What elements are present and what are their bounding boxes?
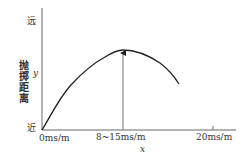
- x-tick-label-mid: 8~15ms/m: [96, 133, 145, 142]
- x-axis-variable: x: [140, 145, 145, 154]
- x-tick-label-20: 20ms/m: [196, 133, 232, 142]
- distance-curve: [42, 50, 179, 130]
- x-tick-label-0: 0ms/m: [39, 134, 69, 143]
- y-axis-far-label: 远: [27, 17, 36, 26]
- y-axis-title: 抛掷距离: [17, 60, 27, 104]
- y-axis-variable: y: [33, 69, 38, 78]
- y-axis-near-label: 近: [27, 124, 36, 133]
